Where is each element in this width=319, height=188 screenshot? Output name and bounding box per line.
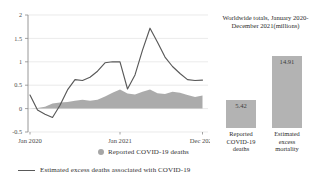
legend-area-swatch-icon: [98, 149, 104, 155]
bar-caption-reported-deaths: Reported COVID-19 deaths: [221, 130, 261, 153]
legend-label-reported-deaths: Reported COVID-19 deaths: [108, 148, 189, 156]
bar-chart-plot: 5.42 14.91: [212, 50, 319, 128]
chart-page: 2 1.5 1 0.5 0 -0.5 Jan 2020 Jan 2021 Dec…: [0, 0, 319, 188]
line-chart-svg: 2 1.5 1 0.5 0 -0.5 Jan 2020 Jan 2021 Dec…: [0, 0, 210, 145]
monthly-deaths-chart: 2 1.5 1 0.5 0 -0.5 Jan 2020 Jan 2021 Dec…: [0, 0, 210, 145]
bar-excess-mortality: 14.91: [272, 56, 302, 128]
bar-value-excess-mortality: 14.91: [272, 58, 302, 65]
bar-column-excess-mortality: 14.91: [272, 56, 302, 128]
y-tick-label-2: 2: [19, 11, 22, 18]
y-tick-label-0: 0: [19, 105, 22, 112]
reported-deaths-area: [30, 89, 203, 108]
x-tick-label-jan-2021: Jan 2021: [108, 137, 132, 144]
x-tick-label-dec-2021: Dec 2021: [190, 137, 210, 144]
x-tick-marks: [30, 132, 203, 135]
y-tick-label-neg0p5: -0.5: [12, 128, 22, 135]
legend-line-swatch-icon: [18, 170, 35, 171]
x-tick-label-jan-2020: Jan 2020: [18, 137, 42, 144]
y-tick-label-0p5: 0.5: [14, 81, 22, 88]
y-tick-label-1: 1: [19, 58, 22, 65]
legend-item-excess-deaths: Estimated excess deaths associated with …: [18, 166, 190, 174]
bar-caption-excess-mortality: Estimated excess mortality: [267, 130, 307, 153]
legend-label-excess-deaths: Estimated excess deaths associated with …: [40, 166, 190, 174]
bar-value-reported-deaths: 5.42: [226, 102, 256, 109]
y-tick-label-1p5: 1.5: [14, 35, 22, 42]
chart-legend: Reported COVID-19 deaths Estimated exces…: [0, 146, 219, 188]
bar-panel-title: Worldwide totals, January 2020-December …: [212, 14, 319, 31]
bar-column-reported-deaths: 5.42: [226, 100, 256, 128]
bar-reported-deaths: 5.42: [226, 100, 256, 128]
legend-item-reported-deaths: Reported COVID-19 deaths: [98, 148, 189, 156]
worldwide-totals-panel: Worldwide totals, January 2020-December …: [212, 0, 319, 188]
